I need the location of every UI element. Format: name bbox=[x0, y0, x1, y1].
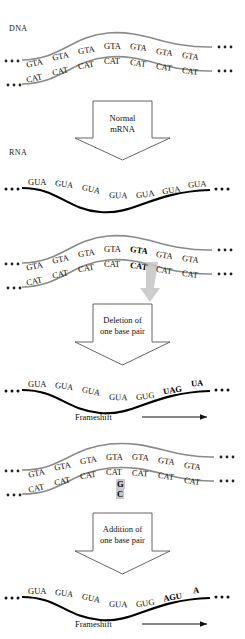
rna-codon: GUA bbox=[109, 599, 128, 610]
rna-strand-addition bbox=[0, 0, 245, 639]
rna-codon: GUA bbox=[28, 586, 46, 596]
figure-canvas: DNA GTA GTA GTA GTA GTA GTA GTA CAT CAT … bbox=[0, 0, 245, 639]
frameshift-arrow-icon bbox=[142, 621, 207, 627]
rna-codon-shifted: A bbox=[193, 585, 200, 595]
frameshift-label: Frameshift bbox=[75, 619, 112, 629]
